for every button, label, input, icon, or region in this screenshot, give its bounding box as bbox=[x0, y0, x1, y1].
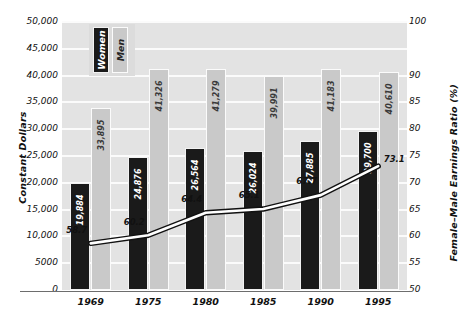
y-axis-left-tick: 50,000 bbox=[27, 16, 59, 26]
x-axis-label: 1990 bbox=[308, 296, 334, 307]
ratio-line-stroke bbox=[91, 166, 379, 243]
y-axis-right-tick: 55 bbox=[409, 257, 420, 267]
ratio-line-outline bbox=[91, 166, 379, 243]
y-axis-right-tick: 90 bbox=[409, 70, 420, 80]
y-axis-right-tick: 65 bbox=[409, 204, 420, 214]
y-axis-left-tick: 40,000 bbox=[27, 70, 59, 80]
y-axis-left-tick: 30,000 bbox=[27, 123, 59, 133]
y-axis-left-tick: 10,000 bbox=[27, 230, 59, 240]
x-axis-label: 1985 bbox=[250, 296, 276, 307]
y-axis-right-tick: 85 bbox=[409, 96, 420, 106]
legend: Women Men bbox=[89, 24, 135, 76]
y-axis-left-tick: 0 bbox=[52, 284, 58, 294]
y-axis-right-tick: 75 bbox=[409, 150, 420, 160]
y-axis-right-ticks: 505560657075808590100 bbox=[409, 0, 449, 333]
ratio-value-label: 64.4 bbox=[181, 194, 202, 204]
y-axis-left-tick: 35,000 bbox=[27, 96, 59, 106]
legend-swatch-men: Men bbox=[112, 27, 128, 73]
chart-container: Constant Dollars Female–Male Earnings Ra… bbox=[0, 0, 471, 333]
ratio-value-label: 60.2 bbox=[124, 217, 145, 227]
y-axis-right-title: Female–Male Earnings Ratio (%) bbox=[448, 102, 459, 262]
y-axis-left-tick: 5000 bbox=[35, 257, 58, 267]
x-axis-label: 1980 bbox=[193, 296, 219, 307]
y-axis-left-tick: 45,000 bbox=[27, 43, 59, 53]
ratio-value-label: 65.1 bbox=[239, 190, 260, 200]
x-axis-label: 1995 bbox=[365, 296, 391, 307]
y-axis-left-tick: 15,000 bbox=[27, 204, 59, 214]
ratio-value-label: 73.1 bbox=[384, 154, 405, 164]
y-axis-right-tick: 100 bbox=[409, 16, 426, 26]
ratio-value-label: 67.7 bbox=[296, 176, 317, 186]
x-axis-label: 1975 bbox=[135, 296, 161, 307]
y-axis-left-tick: 20,000 bbox=[27, 177, 59, 187]
plot-area: 19,88433,89524,87641,32626,56441,27926,0… bbox=[62, 22, 407, 290]
y-axis-right-tick: 70 bbox=[409, 177, 420, 187]
y-axis-right-tick: 80 bbox=[409, 123, 420, 133]
y-axis-left-tick: 25,000 bbox=[27, 150, 59, 160]
legend-swatch-women: Women bbox=[93, 27, 109, 73]
legend-label-men: Men bbox=[115, 39, 126, 62]
y-axis-right-tick: 60 bbox=[409, 230, 420, 240]
ratio-value-label: 58.7 bbox=[66, 225, 87, 235]
x-axis-label: 1969 bbox=[78, 296, 104, 307]
y-axis-left-ticks: 0500010,00015,00020,00025,00030,00035,00… bbox=[10, 0, 58, 333]
y-axis-right-tick: 50 bbox=[409, 284, 420, 294]
x-axis-labels: 196919751980198519901995 bbox=[62, 296, 407, 320]
x-axis-baseline bbox=[20, 291, 412, 292]
legend-label-women: Women bbox=[96, 30, 107, 70]
